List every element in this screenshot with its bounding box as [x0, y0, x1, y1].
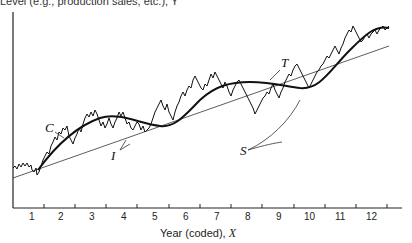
- seasonal-arc-pointer: [248, 142, 282, 150]
- actual-series-line: [13, 26, 389, 175]
- seasonal-arc: [248, 100, 300, 150]
- x-tick-6: 6: [183, 211, 189, 222]
- trend-line: [13, 46, 389, 178]
- x-tick-10: 10: [304, 211, 316, 222]
- x-tick-4: 4: [121, 211, 127, 222]
- x-tick-12: 12: [366, 211, 378, 222]
- x-tick-9: 9: [276, 211, 282, 222]
- x-axis-label: Year (coded), X: [160, 226, 236, 241]
- x-tick-3: 3: [89, 211, 95, 222]
- x-tick-2: 2: [58, 211, 64, 222]
- x-axis-variable: X: [229, 226, 236, 240]
- label-i: I: [110, 148, 116, 163]
- x-tick-7: 7: [214, 211, 220, 222]
- chart-plot: 1 2 3 4 5 6 7 8 9 10 11 12 T C I S: [0, 0, 412, 243]
- label-t-pointer: [270, 70, 280, 80]
- x-tick-5: 5: [152, 211, 158, 222]
- x-tick-labels: 1 2 3 4 5 6 7 8 9 10 11 12: [29, 211, 378, 222]
- label-t: T: [281, 55, 289, 70]
- x-tick-1: 1: [29, 211, 35, 222]
- x-tick-8: 8: [245, 211, 251, 222]
- x-tick-11: 11: [335, 211, 346, 222]
- x-axis-label-text: Year (coded),: [160, 227, 229, 239]
- label-c: C: [45, 120, 54, 135]
- label-s: S: [240, 143, 247, 158]
